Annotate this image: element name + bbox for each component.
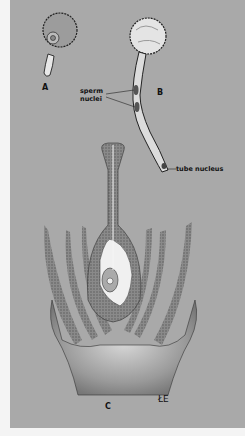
label-a: A [42, 84, 48, 92]
label-sperm: sperm [80, 88, 103, 95]
pollen-grain-a [43, 13, 77, 76]
label-b: B [157, 89, 163, 97]
diagram-drawing [0, 0, 245, 436]
label-nuclei: nuclei [80, 96, 102, 103]
flower-section-c [44, 143, 197, 395]
label-tube-nucleus: tube nucleus [176, 166, 223, 173]
artist-signature: ŁE [158, 395, 169, 404]
label-c: C [105, 403, 111, 411]
